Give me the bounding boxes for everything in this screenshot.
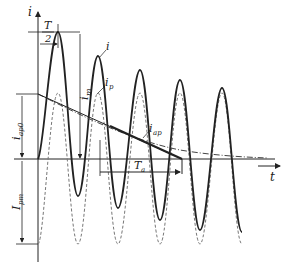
periodic-sub: p [109,83,114,91]
peak-label: i [78,96,91,100]
half-period-num: T [44,19,53,32]
half-period-den: 2 [44,33,51,44]
aperiodic-component-curve [38,94,268,158]
total-current-label: i [106,40,110,53]
ap0-sub: ap0 [17,122,25,136]
y-axis-label: i [28,5,32,19]
total-current-curve [38,32,242,232]
time-constant-sub: a [141,166,145,174]
periodic-label: i [105,76,109,89]
pm-sub: pm [17,194,25,205]
aperiodic-sub: ap [153,129,162,137]
ap0-label: i [10,136,23,140]
waveform-diagram: T 2 i m i ap0 I pm i t i i p i ap T a [0,0,289,267]
peak-sub: m [84,88,93,96]
aperiodic-label: i [149,122,153,135]
x-axis-label: t [270,170,275,184]
